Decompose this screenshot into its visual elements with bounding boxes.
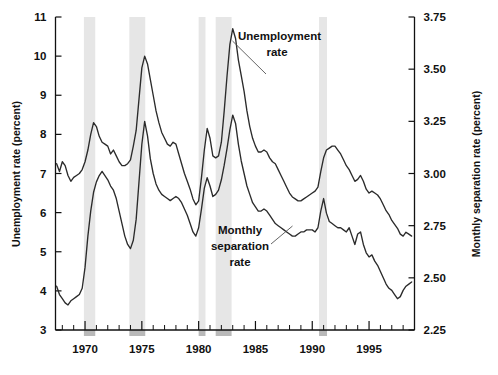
- x-axis-tick-label: 1975: [129, 343, 155, 355]
- left-axis-tick-label: 11: [34, 11, 47, 23]
- recession-band-foot: [216, 330, 232, 336]
- left-axis-title: Unemployment rate (percent): [10, 101, 22, 247]
- recession-band-foot: [129, 330, 145, 336]
- left-axis-tick-label: 5: [40, 246, 47, 258]
- right-axis-title: Monthly separation rate (percent): [470, 91, 482, 257]
- x-axis-tick-label: 1985: [243, 343, 269, 355]
- left-axis-tick-label: 9: [40, 89, 46, 101]
- separation-annotation-line2: separation: [211, 240, 269, 252]
- right-axis-tick-label: 3.50: [424, 63, 446, 75]
- right-axis-tick-label: 3.00: [424, 168, 446, 180]
- unemployment-annotation-line2: rate: [266, 46, 287, 58]
- left-axis-tick-label: 4: [40, 285, 47, 297]
- recession-band-foot: [319, 330, 327, 336]
- right-axis-tick-label: 2.25: [424, 324, 447, 336]
- chart-background: [0, 0, 498, 375]
- left-axis-tick-label: 10: [34, 50, 47, 62]
- right-axis-tick-label: 3.75: [424, 11, 447, 23]
- recession-band-foot: [84, 330, 95, 336]
- x-axis-tick-label: 1980: [186, 343, 212, 355]
- recession-band: [216, 17, 232, 330]
- right-axis-tick-label: 3.25: [424, 115, 447, 127]
- right-axis-tick-label: 2.75: [424, 220, 447, 232]
- right-axis-tick-label: 2.50: [424, 272, 446, 284]
- unemployment-separation-chart: 34567891011 2.252.502.753.003.253.503.75…: [0, 0, 498, 375]
- separation-annotation-line3: rate: [229, 256, 250, 268]
- recession-band-foot: [199, 330, 206, 336]
- left-axis-tick-label: 6: [40, 207, 46, 219]
- separation-annotation-line1: Monthly: [218, 224, 263, 236]
- left-axis-tick-label: 7: [40, 168, 46, 180]
- left-axis-tick-label: 8: [40, 128, 47, 140]
- left-axis-tick-label: 3: [40, 324, 46, 336]
- chart-figure: 34567891011 2.252.502.753.003.253.503.75…: [0, 0, 498, 375]
- unemployment-annotation-line1: Unemployment: [238, 30, 321, 42]
- x-axis-tick-label: 1995: [356, 343, 382, 355]
- recession-band: [84, 17, 95, 330]
- x-axis-tick-label: 1970: [72, 343, 98, 355]
- x-axis-tick-label: 1990: [299, 343, 325, 355]
